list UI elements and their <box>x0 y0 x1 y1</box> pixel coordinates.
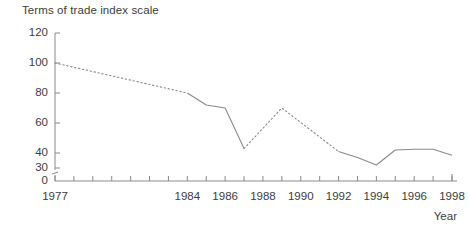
series-segment-dotted <box>244 108 339 152</box>
series-segment-solid <box>339 149 452 165</box>
series-segment-dotted <box>55 63 187 93</box>
chart-root: Terms of trade index scale Year 03040608… <box>0 0 469 235</box>
y-axis-break-mark <box>52 172 58 174</box>
series-segment-solid <box>187 93 244 149</box>
plot-area <box>0 0 469 235</box>
